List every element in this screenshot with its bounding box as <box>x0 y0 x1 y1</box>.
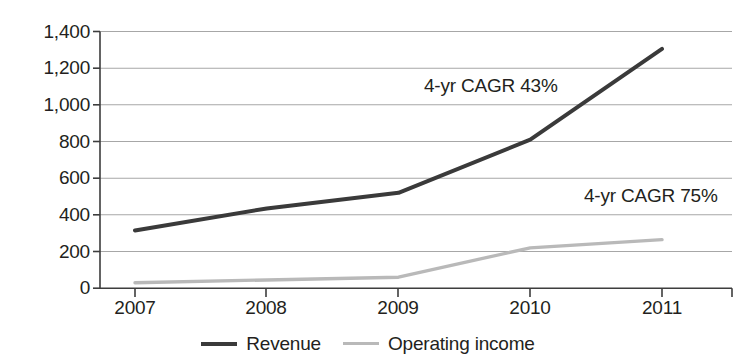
annotation-operating-income-cagr: 4-yr CAGR 75% <box>584 186 718 205</box>
legend-label-operating-income: Operating income <box>388 334 535 353</box>
x-axis-label-2011: 2011 <box>617 298 707 317</box>
series-line-operating-income <box>135 240 662 283</box>
y-axis-label-1000: 1,000 <box>2 95 90 114</box>
legend-swatch-revenue-icon <box>201 342 237 346</box>
legend-item-revenue: Revenue <box>201 334 321 353</box>
y-axis-label-400: 400 <box>2 205 90 224</box>
x-axis-label-2008: 2008 <box>221 298 311 317</box>
line-chart: 1,400 1,200 1,000 800 600 400 200 0 2007… <box>0 0 736 364</box>
legend-label-revenue: Revenue <box>246 334 321 353</box>
series-line-revenue <box>135 49 662 231</box>
legend-item-operating-income: Operating income <box>343 334 535 353</box>
y-axis-label-800: 800 <box>2 132 90 151</box>
x-axis <box>100 288 732 297</box>
annotation-revenue-cagr: 4-yr CAGR 43% <box>424 76 558 95</box>
y-axis-label-1200: 1,200 <box>2 58 90 77</box>
y-axis-label-0: 0 <box>2 278 90 297</box>
y-axis-label-1400: 1,400 <box>2 22 90 41</box>
chart-legend: Revenue Operating income <box>0 334 736 353</box>
x-axis-label-2009: 2009 <box>353 298 443 317</box>
x-axis-label-2007: 2007 <box>90 298 180 317</box>
y-axis <box>93 32 100 289</box>
x-axis-label-2010: 2010 <box>485 298 575 317</box>
y-axis-label-200: 200 <box>2 242 90 261</box>
legend-swatch-operating-income-icon <box>343 342 379 345</box>
y-axis-label-600: 600 <box>2 168 90 187</box>
